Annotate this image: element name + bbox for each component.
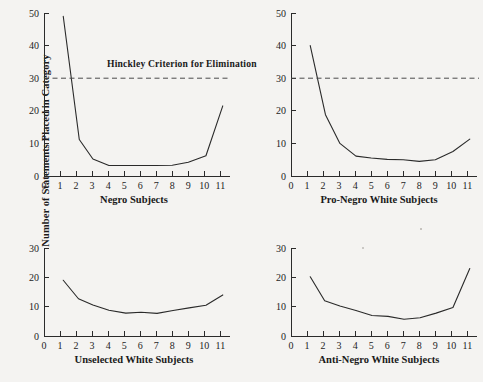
svg-text:0: 0 [42,340,47,351]
svg-text:0: 0 [42,180,47,191]
chart-panel-anti-negro-white-subjects: 010203001234567891011 Anti-Negro White S… [291,243,479,340]
svg-text:7: 7 [401,180,406,191]
svg-text:5: 5 [122,180,127,191]
svg-text:9: 9 [433,340,438,351]
plot-area-negro-subjects: 0102030405001234567891011 [44,8,244,180]
svg-text:9: 9 [433,180,438,191]
svg-text:11: 11 [216,180,226,191]
chart-panel-negro-subjects: 0102030405001234567891011 Negro Subjects [44,8,244,180]
chart-panel-unselected-white-subjects: 010203001234567891011 Unselected White S… [44,243,244,340]
svg-text:10: 10 [276,301,286,312]
svg-text:11: 11 [463,180,473,191]
scan-speck [420,228,422,230]
panel-title-anti-negro-white-subjects: Anti-Negro White Subjects [279,354,479,365]
svg-text:7: 7 [154,180,159,191]
svg-text:8: 8 [170,340,175,351]
svg-text:30: 30 [29,243,39,254]
svg-text:11: 11 [463,340,473,351]
plot-area-anti-negro-white-subjects: 010203001234567891011 [291,243,479,340]
svg-text:9: 9 [186,180,191,191]
svg-text:0: 0 [34,171,39,182]
svg-text:3: 3 [337,340,342,351]
svg-text:3: 3 [337,180,342,191]
svg-text:2: 2 [321,180,326,191]
svg-text:40: 40 [276,40,286,51]
svg-text:30: 30 [276,73,286,84]
svg-text:9: 9 [186,340,191,351]
svg-text:0: 0 [289,340,294,351]
svg-text:10: 10 [199,180,209,191]
svg-text:2: 2 [321,340,326,351]
svg-text:6: 6 [138,340,143,351]
svg-text:50: 50 [29,8,39,19]
svg-text:20: 20 [276,105,286,116]
svg-text:1: 1 [58,180,63,191]
svg-text:0: 0 [34,331,39,342]
chart-panel-pro-negro-white-subjects: 0102030405001234567891011 Pro-Negro Whit… [291,8,479,180]
svg-text:30: 30 [276,243,286,254]
svg-text:7: 7 [154,340,159,351]
svg-text:5: 5 [369,180,374,191]
svg-text:4: 4 [106,180,111,191]
svg-text:40: 40 [29,40,39,51]
panel-title-unselected-white-subjects: Unselected White Subjects [34,354,234,365]
svg-text:6: 6 [385,340,390,351]
svg-text:4: 4 [353,340,358,351]
data-line-3 [310,269,470,320]
svg-text:10: 10 [446,340,456,351]
svg-text:5: 5 [122,340,127,351]
svg-text:10: 10 [446,180,456,191]
svg-text:11: 11 [216,340,226,351]
panel-title-pro-negro-white-subjects: Pro-Negro White Subjects [279,194,479,205]
svg-text:0: 0 [289,180,294,191]
svg-text:1: 1 [305,340,310,351]
data-line-0 [63,16,223,165]
figure-container: Number of Statements Placed in Category … [0,0,483,382]
svg-text:7: 7 [401,340,406,351]
svg-text:1: 1 [305,180,310,191]
svg-text:10: 10 [29,138,39,149]
svg-text:50: 50 [276,8,286,19]
data-line-2 [63,280,223,313]
plot-area-unselected-white-subjects: 010203001234567891011 [44,243,244,340]
svg-text:10: 10 [276,138,286,149]
plot-area-pro-negro-white-subjects: 0102030405001234567891011 [291,8,479,180]
svg-text:10: 10 [29,301,39,312]
svg-text:20: 20 [29,272,39,283]
svg-text:1: 1 [58,340,63,351]
svg-text:10: 10 [199,340,209,351]
panel-title-negro-subjects: Negro Subjects [34,194,234,205]
svg-text:30: 30 [29,73,39,84]
svg-text:0: 0 [281,171,286,182]
svg-text:20: 20 [29,105,39,116]
svg-text:5: 5 [369,340,374,351]
svg-text:8: 8 [417,340,422,351]
svg-text:3: 3 [90,180,95,191]
hinckley-criterion-label: Hinckley Criterion for Elimination [107,58,257,69]
scan-speck [362,247,364,249]
data-line-1 [310,46,470,162]
svg-text:8: 8 [417,180,422,191]
svg-text:20: 20 [276,272,286,283]
svg-text:6: 6 [385,180,390,191]
svg-text:8: 8 [170,180,175,191]
svg-text:6: 6 [138,180,143,191]
svg-text:0: 0 [281,331,286,342]
svg-text:4: 4 [106,340,111,351]
svg-text:2: 2 [74,180,79,191]
svg-text:3: 3 [90,340,95,351]
svg-text:2: 2 [74,340,79,351]
svg-text:4: 4 [353,180,358,191]
